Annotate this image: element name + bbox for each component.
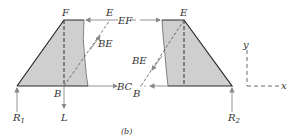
label-ef: EF [117,15,133,26]
axes [247,50,280,86]
label-l: L [60,112,68,123]
right-section-body [162,20,232,86]
label-axis-x: x [281,80,287,91]
label-be-left: BE [97,38,113,49]
label-bc: BC [116,81,133,92]
label-be-right: BE [131,55,147,66]
label-e-right: E [179,7,188,18]
label-r1: R1 [12,112,25,125]
label-f: F [61,7,70,18]
right-section [140,20,232,112]
label-r2: R2 [227,112,241,125]
left-section-body [17,20,88,86]
label-axis-y: y [242,39,249,50]
label-e-left: E [105,7,114,18]
left-section [17,20,136,112]
caption: (b) [121,127,132,136]
be-right-arrow [152,56,162,70]
label-b-left: B [53,88,61,99]
free-body-diagram: F E EF BE B BC L R1 E BE B R2 y x (b) [0,0,292,140]
label-b-right: B [132,88,140,99]
